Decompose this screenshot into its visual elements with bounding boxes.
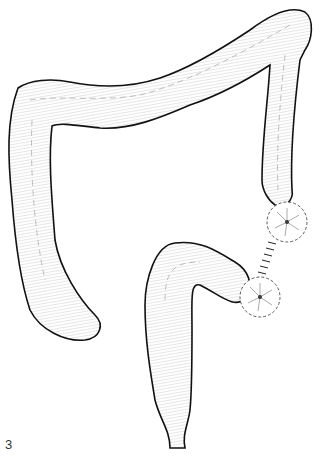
distal-colon [145, 242, 250, 448]
lower-anastomosis-end [240, 277, 280, 317]
suture-line [258, 242, 276, 274]
colon-illustration [0, 0, 321, 457]
upper-anastomosis-end [267, 202, 307, 242]
figure-label: 3 [5, 437, 12, 452]
